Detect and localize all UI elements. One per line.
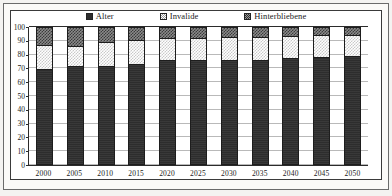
bar-slot (245, 27, 276, 165)
bar-segment-hinterbliebene[interactable] (253, 28, 268, 37)
x-axis-tick-label: 2020 (152, 170, 183, 182)
bar-slot (29, 27, 60, 165)
stacked-bar[interactable] (344, 27, 361, 165)
bar-slot (91, 27, 122, 165)
bar-slot (214, 27, 245, 165)
bar-segment-invalide[interactable] (191, 38, 206, 61)
bar-segment-invalide[interactable] (99, 42, 114, 66)
chart-legend: Alter Invalide Hinterbliebene (0, 9, 392, 23)
stacked-bar[interactable] (128, 27, 145, 165)
stacked-bar[interactable] (313, 27, 330, 165)
bar-segment-invalide[interactable] (314, 35, 329, 57)
bar-segment-invalide[interactable] (283, 36, 298, 59)
bar-segment-hinterbliebene[interactable] (37, 28, 52, 45)
x-axis-tick-label: 2015 (121, 170, 152, 182)
y-axis-tick-label: 80 (18, 51, 26, 59)
x-axis-tick-label: 2005 (59, 170, 90, 182)
x-axis-tick-label: 2035 (244, 170, 275, 182)
bar-segment-alter[interactable] (37, 70, 52, 164)
bar-segment-alter[interactable] (283, 59, 298, 164)
legend-item-hinterbliebene[interactable]: Hinterbliebene (244, 12, 306, 21)
bar-segment-hinterbliebene[interactable] (345, 28, 360, 35)
legend-label-hinterbliebene: Hinterbliebene (254, 12, 306, 21)
legend-item-alter[interactable]: Alter (86, 12, 114, 21)
plot-area: 0102030405060708090100 (28, 27, 368, 166)
y-axis-tick-label: 60 (18, 78, 26, 86)
stacked-bar[interactable] (159, 27, 176, 165)
y-axis-tick-label: 100 (14, 23, 25, 31)
bar-segment-hinterbliebene[interactable] (129, 28, 144, 40)
y-axis-tick-label: 90 (18, 37, 26, 45)
y-axis-tick-label: 20 (18, 134, 26, 142)
stacked-bar[interactable] (221, 27, 238, 165)
stacked-bar[interactable] (98, 27, 115, 165)
bar-segment-hinterbliebene[interactable] (68, 28, 83, 46)
stacked-bar[interactable] (67, 27, 84, 165)
bar-segment-invalide[interactable] (160, 38, 175, 61)
bar-slot (152, 27, 183, 165)
bar-segment-alter[interactable] (129, 65, 144, 164)
bar-segment-hinterbliebene[interactable] (99, 28, 114, 42)
bar-segment-alter[interactable] (314, 58, 329, 164)
bar-slot (306, 27, 337, 165)
stacked-bar[interactable] (282, 27, 299, 165)
legend-swatch-invalide-icon (160, 13, 167, 20)
bar-segment-hinterbliebene[interactable] (222, 28, 237, 37)
bar-segment-invalide[interactable] (37, 45, 52, 70)
y-axis-tick-label: 70 (18, 65, 26, 73)
bar-slot (183, 27, 214, 165)
x-axis-tick-label: 2045 (306, 170, 337, 182)
bar-segment-hinterbliebene[interactable] (160, 28, 175, 38)
bar-segment-alter[interactable] (253, 61, 268, 164)
legend-label-alter: Alter (96, 12, 114, 21)
x-axis-tick-label: 2010 (90, 170, 121, 182)
bar-segment-alter[interactable] (345, 57, 360, 164)
x-axis-tick-label: 2000 (28, 170, 59, 182)
bar-slot (121, 27, 152, 165)
bar-segment-invalide[interactable] (345, 35, 360, 57)
bar-series-group (29, 27, 368, 165)
bar-segment-alter[interactable] (160, 61, 175, 164)
y-axis-tick-label: 0 (21, 161, 25, 169)
bar-segment-invalide[interactable] (129, 40, 144, 65)
bar-segment-hinterbliebene[interactable] (191, 28, 206, 38)
y-axis-tick-label: 10 (18, 147, 26, 155)
bar-segment-hinterbliebene[interactable] (314, 28, 329, 35)
legend-swatch-alter-icon (86, 13, 93, 20)
legend-swatch-hinterbliebene-icon (244, 13, 251, 20)
y-axis-tick-label: 40 (18, 106, 26, 114)
stacked-bar[interactable] (190, 27, 207, 165)
stacked-bar[interactable] (36, 27, 53, 165)
plot-wrapper: 0102030405060708090100 (28, 27, 368, 166)
x-axis-tick-label: 2025 (183, 170, 214, 182)
bar-segment-invalide[interactable] (222, 37, 237, 61)
bar-slot (276, 27, 307, 165)
stacked-bar[interactable] (252, 27, 269, 165)
x-axis-tick-label: 2030 (213, 170, 244, 182)
bar-slot (337, 27, 368, 165)
bar-segment-hinterbliebene[interactable] (283, 28, 298, 36)
x-axis-tick-label: 2040 (275, 170, 306, 182)
bar-segment-alter[interactable] (191, 61, 206, 164)
bar-segment-invalide[interactable] (253, 37, 268, 61)
legend-item-invalide[interactable]: Invalide (160, 12, 199, 21)
bar-segment-alter[interactable] (99, 67, 114, 164)
bar-slot (60, 27, 91, 165)
y-axis-tick-label: 50 (18, 92, 26, 100)
chart-figure: Alter Invalide Hinterbliebene 0102030405… (0, 0, 392, 196)
bar-segment-alter[interactable] (68, 67, 83, 164)
x-axis-tick-label: 2050 (337, 170, 368, 182)
bar-segment-invalide[interactable] (68, 46, 83, 68)
bar-segment-alter[interactable] (222, 61, 237, 164)
y-axis-tick-label: 30 (18, 120, 26, 128)
y-tickmark (26, 165, 29, 166)
x-axis-labels: 2000200520102015202020252030203520402045… (28, 170, 368, 182)
legend-label-invalide: Invalide (170, 12, 199, 21)
